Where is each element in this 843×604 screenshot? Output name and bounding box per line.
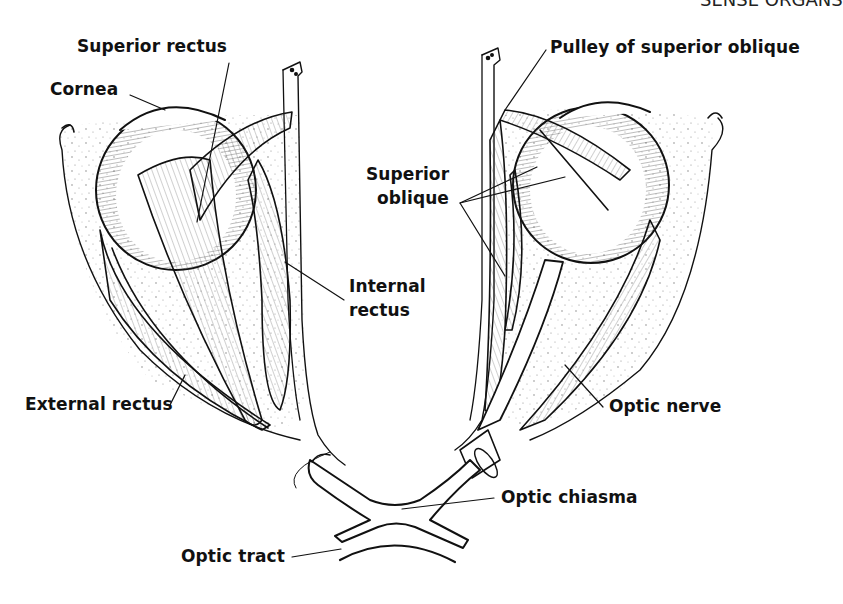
- label-external-rectus: External rectus: [25, 394, 173, 415]
- label-superior-oblique-line1: Superior: [366, 164, 449, 185]
- label-superior-oblique-line2: oblique: [377, 188, 449, 209]
- leader-optic-tract: [292, 549, 341, 557]
- leader-cornea: [130, 95, 165, 110]
- label-cornea: Cornea: [50, 79, 118, 100]
- label-superior-rectus: Superior rectus: [77, 36, 227, 57]
- label-optic-tract: Optic tract: [181, 546, 285, 567]
- label-internal-rectus-line2: rectus: [349, 300, 410, 321]
- optic-chiasma-drawing: [294, 452, 480, 562]
- label-optic-nerve: Optic nerve: [609, 396, 721, 417]
- label-internal-rectus-line1: Internal: [349, 276, 426, 297]
- label-optic-chiasma: Optic chiasma: [501, 487, 638, 508]
- label-pulley-of-superior-oblique: Pulley of superior oblique: [550, 37, 800, 58]
- leader-pulley: [505, 50, 546, 110]
